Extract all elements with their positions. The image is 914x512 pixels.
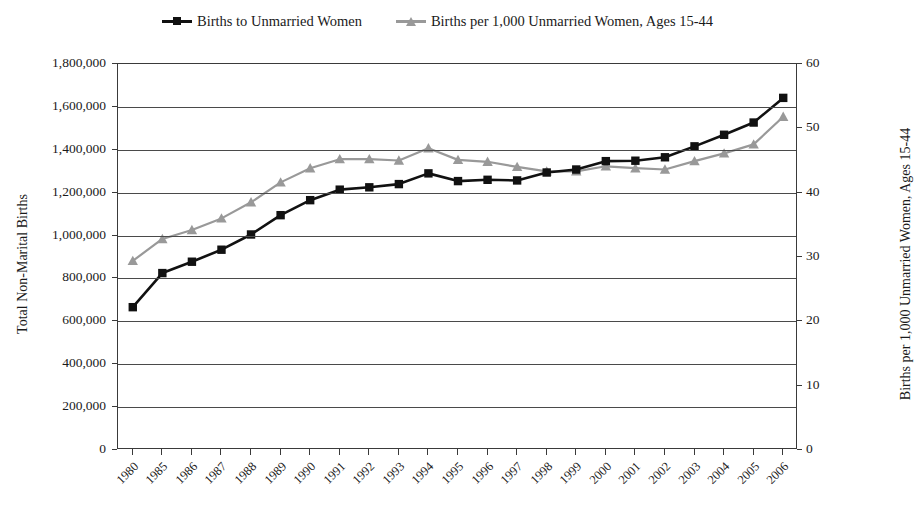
x-axis-tick [339,449,340,455]
x-axis-tick [457,449,458,455]
x-axis-tick [575,449,576,455]
right-axis-tick-label: 0 [806,442,813,456]
x-axis-tick [634,449,635,455]
data-point-square-marker [749,118,757,126]
left-axis-tick [112,235,117,236]
x-axis-tick [605,449,606,455]
data-point-square-marker [217,246,225,254]
right-axis-tick [797,256,802,257]
chart-legend: Births to Unmarried Women Births per 1,0… [0,14,875,29]
data-point-square-marker [247,230,255,238]
x-axis-tick [220,449,221,455]
gridline [118,107,796,108]
left-axis-tick [112,106,117,107]
right-axis-tick-label: 40 [806,185,820,199]
gridline [118,193,796,194]
x-axis-tick [398,449,399,455]
data-point-triangle-marker [423,143,433,152]
left-axis-tick [112,63,117,64]
gridline [118,407,796,408]
gridline [118,321,796,322]
series-line [133,117,783,261]
x-axis-tick [368,449,369,455]
left-axis-tick-label: 0 [0,442,106,456]
data-point-square-marker [188,258,196,266]
left-axis-tick-label: 1,600,000 [0,99,106,113]
gridline [118,364,796,365]
x-axis-tick [516,449,517,455]
gridline [118,278,796,279]
x-axis-tick [723,449,724,455]
left-axis-tick-label: 1,200,000 [0,185,106,199]
x-axis-tick [487,449,488,455]
right-axis-tick-label: 30 [806,249,820,263]
left-axis-tick [112,449,117,450]
legend-swatch-triangle-icon [396,15,426,27]
x-axis-tick [250,449,251,455]
x-axis-tick [161,449,162,455]
data-point-square-marker [306,196,314,204]
data-point-square-marker [424,169,432,177]
data-point-square-marker [365,183,373,191]
data-point-square-marker [483,176,491,184]
right-axis-tick [797,192,802,193]
data-point-square-marker [661,153,669,161]
right-axis-title: Births per 1,000 Unmarried Women, Ages 1… [898,99,914,429]
x-axis-tick [546,449,547,455]
x-axis-tick [280,449,281,455]
right-axis-tick-label: 20 [806,313,820,327]
series-line [133,98,783,307]
data-point-triangle-marker [275,177,285,186]
x-axis-tick [782,449,783,455]
data-point-square-marker [129,303,137,311]
right-axis-tick [797,127,802,128]
data-point-square-marker [454,177,462,185]
right-axis-tick-label: 60 [806,56,820,70]
plot-area [117,63,797,449]
data-point-square-marker [779,94,787,102]
x-axis-tick [132,449,133,455]
left-axis-tick [112,277,117,278]
data-point-square-marker [158,269,166,277]
left-axis-tick-label: 200,000 [0,399,106,413]
legend-label-1: Births per 1,000 Unmarried Women, Ages 1… [431,14,713,29]
right-axis-tick [797,449,802,450]
legend-item-births-to-unmarried-women[interactable]: Births to Unmarried Women [162,14,362,29]
data-point-square-marker [602,157,610,165]
data-point-square-marker [395,180,403,188]
data-point-square-marker [543,168,551,176]
left-axis-tick [112,320,117,321]
data-point-square-marker [631,157,639,165]
series-births-per-1000-unmarried-women [128,112,789,265]
left-axis-tick-label: 1,000,000 [0,228,106,242]
left-axis-tick-label: 1,800,000 [0,56,106,70]
left-axis-tick-label: 400,000 [0,356,106,370]
right-axis-tick [797,320,802,321]
data-point-square-marker [572,165,580,173]
x-axis-tick [309,449,310,455]
right-axis-tick-label: 10 [806,378,820,392]
x-axis-tick [427,449,428,455]
data-point-triangle-marker [246,197,256,206]
left-axis-tick-label: 1,400,000 [0,142,106,156]
right-axis-tick [797,63,802,64]
data-point-square-marker [513,176,521,184]
gridline [118,236,796,237]
x-axis-tick [694,449,695,455]
left-axis-tick [112,149,117,150]
left-axis-tick-label: 800,000 [0,270,106,284]
series-layer [118,64,798,450]
x-axis-tick [753,449,754,455]
left-axis-tick-label: 600,000 [0,313,106,327]
left-axis-tick [112,192,117,193]
x-axis-tick [191,449,192,455]
gridline [118,150,796,151]
right-axis-tick [797,385,802,386]
data-point-triangle-marker [778,112,788,121]
legend-label-0: Births to Unmarried Women [197,14,362,29]
left-axis-tick [112,406,117,407]
left-axis-tick [112,363,117,364]
legend-item-births-per-1000-unmarried-women[interactable]: Births per 1,000 Unmarried Women, Ages 1… [396,14,713,29]
legend-swatch-square-icon [162,15,192,27]
